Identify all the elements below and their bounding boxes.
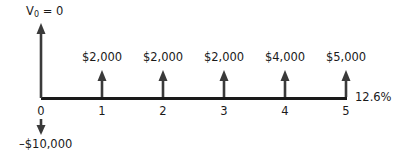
value-symbol: V <box>26 4 34 18</box>
initial-outflow-label: –$10,000 <box>19 139 72 151</box>
inflow-arrow-icon-2 <box>159 70 168 97</box>
rate-label: 12.6% <box>355 92 392 104</box>
inflow-arrow-icon-5 <box>342 70 351 97</box>
initial-value-label: V0 = 0 <box>26 6 63 19</box>
period-label-4: 4 <box>281 106 288 118</box>
outflow-arrow-icon <box>37 119 46 135</box>
inflow-arrow-icon-1 <box>98 70 107 97</box>
value-subscript: 0 <box>34 10 39 19</box>
inflow-amount-1: $2,000 <box>82 52 122 64</box>
inflow-arrow-icon-3 <box>220 70 229 97</box>
inflow-arrow-icon-4 <box>281 70 290 97</box>
initial-value-arrow-icon <box>37 23 46 98</box>
inflow-amount-5: $5,000 <box>326 52 366 64</box>
inflow-amount-3: $2,000 <box>204 52 244 64</box>
period-label-5: 5 <box>342 106 349 118</box>
period-label-3: 3 <box>220 106 227 118</box>
period-label-1: 1 <box>98 106 105 118</box>
timeline-graphic <box>0 0 408 157</box>
value-equals: = 0 <box>43 4 64 18</box>
period-label-2: 2 <box>159 106 166 118</box>
period-label-0: 0 <box>37 106 44 118</box>
inflow-amount-4: $4,000 <box>265 52 305 64</box>
inflow-amount-2: $2,000 <box>143 52 183 64</box>
